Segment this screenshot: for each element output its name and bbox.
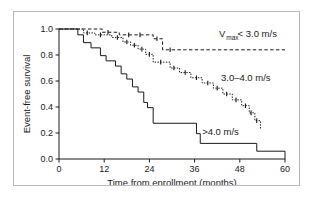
x-axis-title: Time from enrollment (months) (107, 177, 237, 185)
y-tick-label: 0.6 (40, 76, 53, 86)
chart-frame: 0.00.20.40.60.81.001224364860Time from e… (13, 11, 300, 186)
series-label-vmax-gt-4: >4.0 m/s (202, 126, 239, 137)
curve-vmax-gt-4 (59, 29, 285, 159)
x-tick-label: 36 (190, 164, 200, 174)
y-tick-label: 1.0 (40, 24, 53, 34)
figure-root: 0.00.20.40.60.81.001224364860Time from e… (0, 0, 314, 198)
y-tick-label: 0.4 (40, 102, 53, 112)
y-tick-label: 0.0 (40, 154, 53, 164)
x-tick-label: 24 (144, 164, 154, 174)
x-tick-label: 60 (280, 164, 290, 174)
kaplan-meier-plot: 0.00.20.40.60.81.001224364860Time from e… (14, 12, 299, 185)
curves-group (59, 29, 285, 159)
series-label-main: V (219, 28, 226, 39)
y-tick-label: 0.8 (40, 50, 53, 60)
x-tick-label: 48 (235, 164, 245, 174)
series-label-tail: < 3.0 m/s (238, 28, 278, 39)
y-tick-label: 0.2 (40, 128, 53, 138)
x-tick-label: 0 (56, 164, 61, 174)
series-label-vmax-lt-3: Vmax < 3.0 m/s (219, 28, 277, 41)
axes-group: 0.00.20.40.60.81.001224364860Time from e… (21, 24, 290, 185)
x-tick-label: 12 (99, 164, 109, 174)
y-axis-title: Event-free survival (21, 55, 32, 134)
series-label-vmax-3-to-4: 3.0–4.0 m/s (221, 72, 271, 83)
